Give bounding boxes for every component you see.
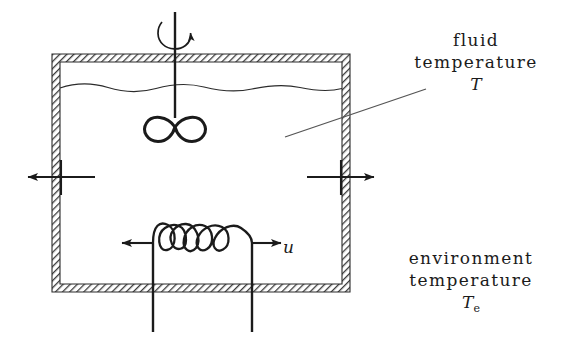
environment-label-line2: temperature [378,270,564,292]
heater-input-symbol: u [283,237,294,257]
environment-label-line1: environment [378,248,564,270]
stirred-tank-diagram: fluid temperature T environment temperat… [0,0,564,355]
callout-leader-line [285,89,426,137]
stirrer-assembly [145,12,206,142]
heat-loss-right [307,160,374,195]
environment-temperature-label: environment temperature Te [378,248,564,316]
fluid-surface [60,84,342,92]
heat-loss-left [28,160,95,195]
tank-wall-hatched [52,54,350,292]
heater-coil [122,224,281,332]
environment-symbol-subscript: e [473,302,480,315]
tank-vessel [52,54,350,292]
environment-symbol-base: T [462,292,473,312]
fluid-temperature-symbol: T [388,74,564,96]
fluid-label-line2: temperature [388,52,564,74]
fluid-label-line1: fluid [388,30,564,52]
coil-helix [153,224,252,251]
impeller-icon [145,117,206,141]
fluid-temperature-label: fluid temperature T [388,30,564,95]
environment-temperature-symbol: Te [378,292,564,316]
